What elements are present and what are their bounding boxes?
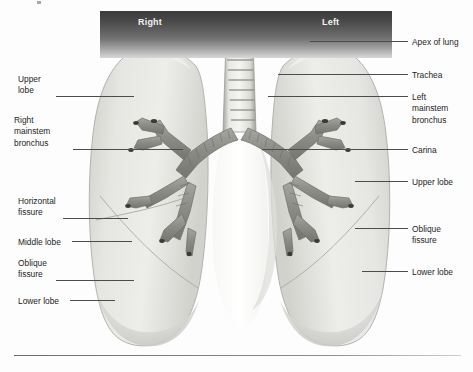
leader-line-lower-lobe-left-col: [70, 300, 115, 301]
label-left-mainstem-bronchus: Left mainstem bronchus: [412, 92, 448, 126]
figure-bottom-rule: [14, 355, 461, 356]
leader-line-apex-of-lung: [310, 41, 408, 42]
label-oblique-fissure-right: Oblique fissure: [412, 224, 441, 247]
label-lower-lobe-right-col: Lower lobe: [412, 267, 453, 278]
label-oblique-fissure-left: Oblique fissure: [18, 258, 47, 281]
leader-line-trachea: [278, 74, 408, 75]
leader-line-right-mainstem-bronchus: [73, 149, 183, 150]
leader-line-middle-lobe: [72, 241, 132, 242]
label-right-mainstem-bronchus: Right mainstem bronchus: [14, 115, 50, 149]
lung-anatomy-figure: Right Left Upper lobeRight mainstem bron…: [0, 0, 473, 372]
banner-label-left: Left: [322, 17, 339, 27]
leader-line-carina: [262, 149, 408, 150]
leader-line-horizontal-fissure: [63, 218, 128, 219]
leader-line-lower-lobe-right-col: [362, 271, 408, 272]
label-upper-lobe-right-col: Upper lobe: [412, 177, 453, 188]
label-carina: Carina: [412, 145, 437, 156]
label-upper-lobe-left-col: Upper lobe: [18, 74, 41, 97]
orientation-banner: Right Left: [100, 11, 392, 58]
leader-line-oblique-fissure-left: [56, 280, 134, 281]
label-middle-lobe: Middle lobe: [18, 237, 61, 248]
leader-line-upper-lobe-left-col: [56, 96, 134, 97]
leader-line-upper-lobe-right-col: [355, 181, 408, 182]
label-apex-of-lung: Apex of lung: [412, 37, 459, 48]
banner-label-right: Right: [138, 17, 162, 27]
label-trachea: Trachea: [412, 70, 442, 81]
leader-line-oblique-fissure-right: [355, 228, 408, 229]
leader-line-left-mainstem-bronchus: [268, 96, 408, 97]
label-lower-lobe-left-col: Lower lobe: [18, 296, 59, 307]
label-horizontal-fissure: Horizontal fissure: [18, 196, 56, 219]
